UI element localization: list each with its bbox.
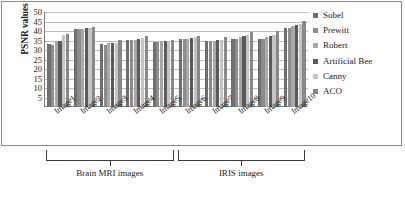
y-axis-tick-label: 15	[34, 74, 43, 83]
bar-group	[177, 12, 203, 107]
legend-label: Artificial Bee	[323, 57, 372, 66]
bar-group	[98, 12, 124, 107]
y-axis-tick-label: 25	[34, 55, 43, 64]
y-axis-tick-label: 30	[34, 46, 43, 55]
legend-item: Sobel	[313, 8, 403, 23]
legend-label: Robert	[323, 41, 348, 50]
legend-swatch	[313, 13, 318, 18]
bar-group	[282, 12, 308, 107]
group-bracket	[178, 150, 306, 161]
legend-item: Canny	[313, 69, 403, 84]
group-bracket-label: IRIS images	[178, 168, 306, 178]
y-axis-tick-labels: 5101520253035404550	[24, 8, 42, 108]
bar-group	[229, 12, 255, 107]
legend-swatch	[313, 28, 318, 33]
bar-group	[203, 12, 229, 107]
legend-swatch	[313, 89, 318, 94]
y-axis-tick-label: 40	[34, 27, 43, 36]
group-bracket-label: Brain MRI images	[46, 168, 174, 178]
legend-item: Prewitt	[313, 23, 403, 38]
legend-swatch	[313, 74, 318, 79]
group-bracket-stem	[110, 161, 111, 166]
bar-group	[71, 12, 97, 107]
legend-label: Canny	[323, 72, 347, 81]
legend-label: Sobel	[323, 11, 344, 20]
chart-legend: SobelPrewittRobertArtificial BeeCannyACO	[313, 8, 403, 99]
legend-label: Prewitt	[323, 26, 349, 35]
group-bracket-stem	[241, 161, 242, 166]
bar-group	[45, 12, 71, 107]
y-axis-tick-label: 20	[34, 65, 43, 74]
legend-item: ACO	[313, 84, 403, 99]
psnr-bar-chart: PSNR values 5101520253035404550 Image1Im…	[0, 0, 405, 200]
y-axis-tick-label: 5	[38, 93, 42, 102]
bar-group	[255, 12, 281, 107]
y-axis-tick-label: 35	[34, 36, 43, 45]
legend-swatch	[313, 59, 318, 64]
legend-item: Artificial Bee	[313, 54, 403, 69]
bar-group	[124, 12, 150, 107]
legend-label: ACO	[323, 87, 342, 96]
group-annotations: Brain MRI imagesIRIS images	[0, 150, 405, 200]
y-axis-tick-label: 45	[34, 17, 43, 26]
y-axis-tick-label: 10	[34, 84, 43, 93]
bar-group	[150, 12, 176, 107]
y-axis-tick-label: 50	[34, 8, 43, 17]
legend-swatch	[313, 43, 318, 48]
x-axis-category-labels: Image1Image2Image3Image4Image5Image6Imag…	[44, 108, 307, 148]
legend-item: Robert	[313, 38, 403, 53]
group-bracket	[46, 150, 174, 161]
